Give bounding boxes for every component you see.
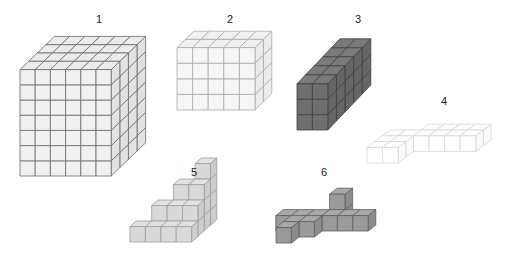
shape-label-6: 6: [321, 167, 327, 178]
solid-5: [130, 158, 217, 242]
solid-6: [276, 188, 376, 243]
solid-2: [177, 31, 272, 110]
shape-label-4: 4: [441, 96, 447, 107]
shape-label-3: 3: [355, 14, 361, 25]
shape-label-1: 1: [96, 14, 102, 25]
shape-label-2: 2: [227, 14, 233, 25]
cube-solids-drawing: [0, 0, 514, 262]
solid-3: [297, 39, 371, 130]
solid-1: [20, 36, 146, 176]
shape-label-5: 5: [191, 167, 197, 178]
figure-canvas: 1 2 3 4 5 6: [0, 0, 514, 262]
solid-4: [367, 124, 491, 163]
